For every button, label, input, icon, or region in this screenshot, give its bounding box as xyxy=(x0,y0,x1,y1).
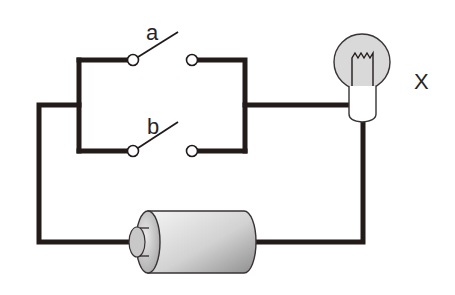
battery-body xyxy=(148,211,256,273)
switch-a-terminal-left xyxy=(128,55,139,66)
switch-b[interactable]: b xyxy=(128,114,198,157)
circuit-diagram: a b X xyxy=(0,0,455,295)
bulb-base xyxy=(349,86,376,122)
switch-a-label: a xyxy=(146,20,159,45)
switch-b-terminal-left xyxy=(128,146,139,157)
wire-left-loop xyxy=(39,105,128,242)
battery-terminal xyxy=(129,227,145,257)
bulb-label: X xyxy=(414,69,429,94)
bulb-x: X xyxy=(334,34,429,122)
bulb-glass xyxy=(334,34,390,90)
wire-branch-a-right xyxy=(198,60,245,151)
wire-bulb-to-battery xyxy=(252,120,363,242)
switch-b-label: b xyxy=(147,114,159,139)
battery xyxy=(129,211,256,273)
switch-a[interactable]: a xyxy=(128,20,198,66)
switch-b-terminal-right xyxy=(187,146,198,157)
switch-a-terminal-right xyxy=(187,55,198,66)
